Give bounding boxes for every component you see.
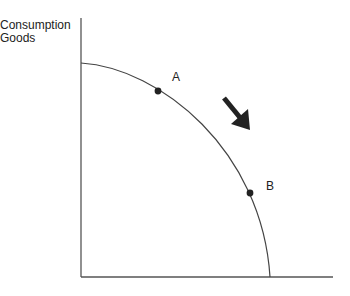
point-a-label: A [172, 70, 180, 84]
ppf-curve [81, 63, 270, 277]
point-a-marker [155, 88, 162, 95]
arrow-down-right-icon [224, 98, 250, 130]
point-b-marker [247, 190, 254, 197]
point-b-label: B [266, 179, 274, 193]
ppf-diagram: A B [0, 0, 350, 296]
